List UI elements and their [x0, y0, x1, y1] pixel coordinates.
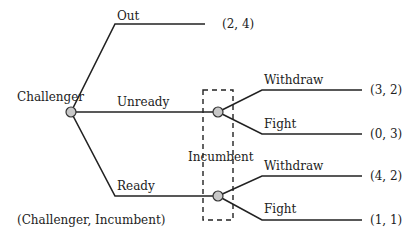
- fight-label-2: Fight: [264, 202, 297, 216]
- challenger-node: [66, 107, 76, 117]
- withdraw-label-1: Withdraw: [264, 73, 324, 87]
- fight-label-1: Fight: [264, 117, 297, 131]
- out-label: Out: [117, 9, 140, 23]
- incumbent-node-unready: [213, 107, 223, 117]
- unready-label: Unready: [117, 95, 170, 109]
- incumbent-node-ready: [213, 191, 223, 201]
- edge-unready-withdraw: [218, 90, 362, 112]
- payoff-ready-withdraw: (4, 2): [370, 169, 402, 183]
- challenger-label: Challenger: [17, 90, 84, 104]
- withdraw-label-2: Withdraw: [264, 159, 324, 173]
- payoff-legend: (Challenger, Incumbent): [17, 213, 165, 227]
- edge-ready-withdraw: [218, 176, 362, 196]
- payoff-unready-fight: (0, 3): [370, 127, 402, 141]
- payoff-ready-fight: (1, 1): [370, 213, 402, 227]
- payoff-out: (2, 4): [222, 17, 254, 31]
- payoff-unready-withdraw: (3, 2): [370, 83, 402, 97]
- incumbent-label: Incumbent: [188, 150, 254, 164]
- game-tree: Challenger Out (2, 4) Unready Ready Incu…: [0, 0, 417, 241]
- ready-label: Ready: [117, 179, 155, 193]
